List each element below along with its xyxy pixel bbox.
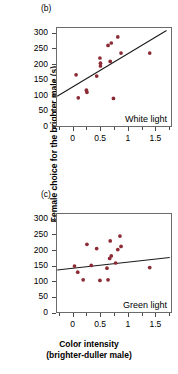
- data-point: [98, 56, 102, 60]
- data-point: [148, 51, 152, 55]
- x-axis-title: Color intensity (brighter-duller male): [0, 339, 178, 361]
- x-tick-minor-mark: [86, 127, 87, 130]
- panel-c: (c) 050100150200250300 Green light 00.51…: [0, 186, 178, 338]
- x-tick-mark: [155, 313, 156, 317]
- x-tick-label: 0: [70, 133, 75, 143]
- x-tick-label: 0.5: [94, 133, 106, 143]
- y-tick-label: 300: [34, 27, 48, 37]
- x-tick-mark: [73, 313, 74, 317]
- data-point: [106, 44, 110, 48]
- data-point: [118, 234, 122, 238]
- data-point: [89, 264, 93, 268]
- panel-b-plot-area: White light: [56, 27, 172, 127]
- y-tick-label: 250: [34, 43, 48, 53]
- x-tick-mark: [128, 127, 129, 131]
- data-point: [109, 254, 113, 258]
- x-tick-label: 0.5: [94, 319, 106, 329]
- data-point: [116, 35, 120, 39]
- data-point: [114, 261, 118, 265]
- y-tick-label: 50: [39, 105, 48, 115]
- x-tick-label: 1: [125, 133, 130, 143]
- data-point: [116, 248, 120, 252]
- data-point: [85, 242, 89, 246]
- y-tick-label: 0: [43, 307, 48, 317]
- data-point: [119, 245, 123, 249]
- data-point: [95, 74, 99, 78]
- x-axis-title-line1: Color intensity: [0, 339, 178, 350]
- panel-b-annotation: White light: [125, 114, 167, 124]
- panel-c-plot-area: Green light: [56, 213, 172, 313]
- data-point: [148, 266, 152, 270]
- data-point: [119, 51, 123, 55]
- data-point: [98, 279, 102, 283]
- x-tick-minor-mark: [169, 127, 170, 130]
- data-point: [95, 247, 99, 251]
- x-tick-mark: [100, 127, 101, 131]
- y-tick-label: 150: [34, 260, 48, 270]
- x-tick-minor-mark: [59, 127, 60, 130]
- data-point: [112, 97, 116, 101]
- x-tick-mark: [155, 127, 156, 131]
- data-point: [108, 60, 112, 64]
- figure-scatter-panels: Female choice for the brighter male (s) …: [0, 0, 178, 374]
- x-tick-minor-mark: [59, 313, 60, 316]
- y-tick-label: 100: [34, 276, 48, 286]
- x-tick-minor-mark: [142, 127, 143, 130]
- y-tick-label: 150: [34, 74, 48, 84]
- data-point: [105, 266, 109, 270]
- panel-b-x-ticks: 00.511.5: [56, 127, 172, 149]
- x-tick-minor-mark: [114, 313, 115, 316]
- x-tick-label: 1.5: [150, 319, 162, 329]
- data-point: [81, 278, 85, 282]
- data-point: [108, 239, 112, 243]
- x-tick-label: 0: [70, 319, 75, 329]
- y-tick-label: 200: [34, 59, 48, 69]
- panel-b-tag: (b): [41, 3, 51, 13]
- panel-b: (b) 050100150200250300 White light 00.51…: [0, 0, 178, 150]
- panel-c-annotation: Green light: [123, 300, 167, 310]
- y-tick-label: 50: [39, 291, 48, 301]
- x-axis-title-line2: (brighter-duller male): [0, 350, 178, 361]
- data-point: [106, 278, 110, 282]
- panel-c-data-layer: [57, 214, 171, 312]
- x-tick-mark: [73, 127, 74, 131]
- y-tick-label: 100: [34, 90, 48, 100]
- x-tick-minor-mark: [169, 313, 170, 316]
- data-point: [73, 264, 77, 268]
- x-tick-label: 1: [125, 319, 130, 329]
- panel-b-data-layer: [57, 28, 171, 126]
- panel-c-y-ticks: 050100150200250300: [0, 213, 56, 313]
- x-tick-label: 1.5: [150, 133, 162, 143]
- panel-b-y-ticks: 050100150200250300: [0, 27, 56, 127]
- trendline: [57, 257, 170, 270]
- data-point: [76, 96, 80, 100]
- y-tick-label: 0: [43, 121, 48, 131]
- data-point: [109, 41, 113, 45]
- x-tick-minor-mark: [114, 127, 115, 130]
- x-tick-minor-mark: [142, 313, 143, 316]
- y-tick-label: 200: [34, 245, 48, 255]
- x-tick-mark: [100, 313, 101, 317]
- data-point: [99, 64, 103, 68]
- panel-c-tag: (c): [41, 189, 51, 199]
- panel-c-x-ticks: 00.511.5: [56, 313, 172, 335]
- data-point: [76, 270, 80, 274]
- trendline: [57, 30, 166, 96]
- x-tick-mark: [128, 313, 129, 317]
- x-tick-minor-mark: [86, 313, 87, 316]
- data-point: [74, 73, 78, 77]
- y-tick-label: 300: [34, 213, 48, 223]
- data-point: [85, 90, 89, 94]
- y-tick-label: 250: [34, 229, 48, 239]
